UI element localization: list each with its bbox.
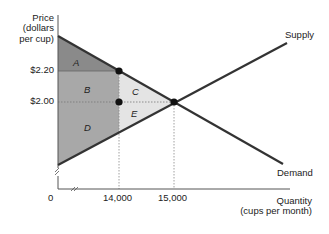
- region-ce-area: [119, 71, 174, 132]
- region-a-label: A: [73, 57, 79, 68]
- point-price-2-00: [115, 98, 122, 105]
- region-b-label: B: [84, 84, 90, 95]
- supply-label: Supply: [285, 30, 314, 40]
- y-axis-label-line3: per cup): [18, 34, 54, 44]
- x-axis-label-line2: (cups per month): [220, 206, 312, 216]
- equilibrium-point: [170, 98, 177, 105]
- region-c-label: C: [132, 86, 139, 97]
- x-axis-label: Quantity (cups per month): [220, 196, 312, 217]
- y-axis-label: Price (dollars per cup): [18, 13, 54, 44]
- price-tick-2-20: $2.20: [10, 65, 54, 75]
- origin-label: 0: [48, 193, 53, 203]
- demand-label: Demand: [277, 168, 313, 178]
- region-d-label: D: [84, 122, 91, 133]
- y-axis-break-icon: [55, 168, 59, 175]
- point-price-2-20: [115, 67, 122, 74]
- price-tick-2-00: $2.00: [10, 96, 54, 106]
- region-e-label: E: [131, 108, 137, 119]
- quantity-tick-15000: 15,000: [158, 193, 187, 203]
- quantity-tick-14000: 14,000: [103, 193, 132, 203]
